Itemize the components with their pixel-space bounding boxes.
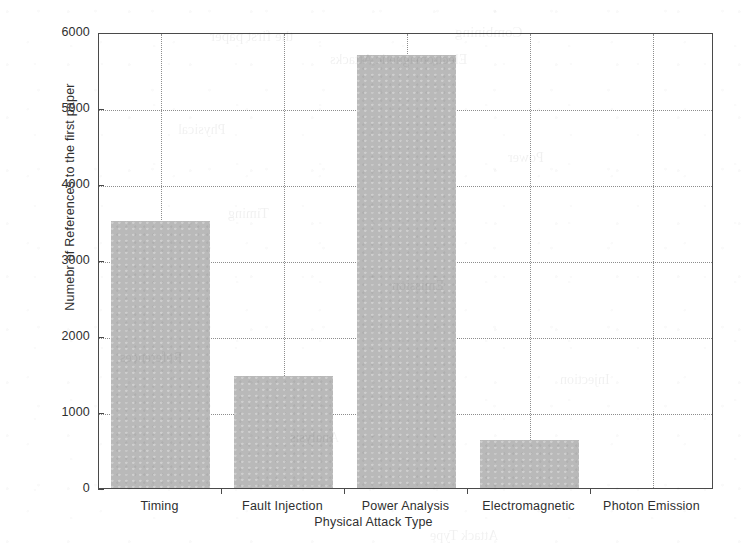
x-tick-label: Power Analysis [344,499,467,513]
x-tick-label: Electromagnetic [467,499,590,513]
y-tick-label: 0 [44,481,90,495]
y-tick-mark [98,489,104,490]
x-axis-title: Physical Attack Type [0,515,747,529]
x-tick-mark [467,489,468,494]
y-tick-label: 6000 [44,25,90,39]
x-tick-mark [590,489,591,494]
x-tick-label: Fault Injection [221,499,344,513]
bar-series [99,34,712,488]
x-tick-label: Photon Emission [590,499,713,513]
x-tick-label: Timing [98,499,221,513]
y-tick-label: 1000 [44,405,90,419]
y-tick-label: 2000 [44,329,90,343]
x-tick-mark [221,489,222,494]
bar-timing [111,221,209,488]
bar-power-analysis [357,55,455,488]
x-tick-mark [344,489,345,494]
y-axis-title: Numebr of References to the first paper [63,67,77,327]
plot-area [98,33,713,489]
bar-fault-injection [234,376,332,488]
bar-electromagnetic [480,440,578,488]
bar-chart-figure: 0100020003000400050006000 TimingFault In… [0,0,747,554]
